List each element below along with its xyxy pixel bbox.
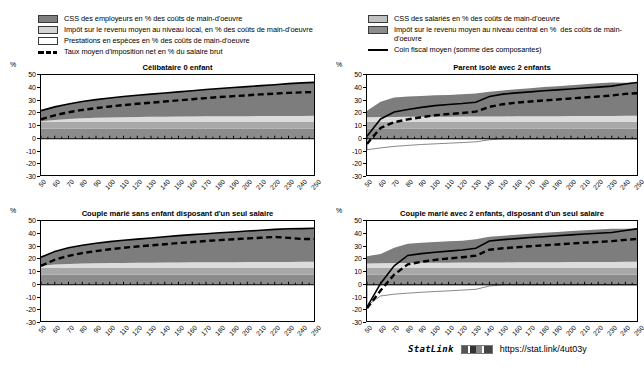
y-axis-tick-label: 30	[354, 96, 362, 103]
x-axis-tick-label: 50	[37, 324, 47, 334]
legend-label-local-income-tax: Impôt sur le revenu moyen au niveau loca…	[64, 25, 313, 34]
x-axis-tick-label: 80	[78, 324, 88, 334]
x-axis-tick-label: 70	[390, 324, 400, 334]
area-series	[367, 268, 638, 275]
y-axis-tick-label: -30	[26, 319, 36, 326]
x-axis-tick-label: 200	[565, 324, 578, 337]
x-axis-tick-label: 70	[390, 178, 400, 188]
y-axis-unit-label: %	[336, 207, 342, 214]
y-axis-tick-label: -30	[26, 173, 36, 180]
y-axis-tick-label: 0	[32, 134, 36, 141]
y-axis-tick-label: 40	[28, 229, 36, 236]
x-axis-tick-label: 240	[619, 324, 632, 337]
y-axis-tick	[37, 112, 40, 113]
x-axis-tick-label: 240	[296, 178, 309, 191]
y-axis-tick-label: 20	[354, 255, 362, 262]
y-axis-tick	[363, 220, 366, 221]
chart-panel-celibataire-0-enfant: %Célibataire 0 enfant50403020100-10-20-3…	[0, 62, 322, 200]
y-axis-tick	[37, 297, 40, 298]
x-axis-tick-label: 170	[200, 324, 213, 337]
x-axis-tick-label: 190	[227, 178, 240, 191]
y-axis-tick	[37, 271, 40, 272]
y-axis-tick	[37, 87, 40, 88]
y-axis-tick	[363, 297, 366, 298]
x-axis-tick-label: 180	[537, 324, 550, 337]
area-series	[41, 122, 315, 129]
x-axis-tick-label: 220	[268, 324, 281, 337]
x-axis-tick-label: 160	[186, 324, 199, 337]
x-axis-tick-label: 150	[497, 178, 510, 191]
y-axis-unit-label: %	[10, 207, 16, 214]
legend-swatch-central-income-tax	[368, 26, 388, 34]
legend-item-employer-ssc: CSS des employeurs en % des coûts de mai…	[38, 14, 338, 24]
x-axis-tick-label: 50	[363, 324, 373, 334]
x-axis-tick-label: 110	[443, 178, 455, 190]
x-axis-tick-label: 240	[296, 324, 309, 337]
y-axis-tick	[363, 138, 366, 139]
panel-title: Couple marié avec 2 enfants, disposant d…	[366, 209, 638, 218]
x-axis-tick-label: 60	[377, 324, 387, 334]
chart-panel-couple-marie-2-enfants: %Couple marié avec 2 enfants, disposant …	[322, 208, 644, 348]
x-axis-tick-label: 120	[131, 178, 144, 191]
x-axis-tick-label: 220	[592, 324, 605, 337]
y-axis-tick	[37, 100, 40, 101]
x-axis-tick-label: 80	[404, 324, 414, 334]
x-axis-tick-label: 170	[200, 178, 213, 191]
series-canvas	[41, 221, 315, 322]
statlink[interactable]: StatLink https://stat.link/4ut03y	[408, 344, 587, 354]
y-axis-tick-label: -10	[26, 147, 36, 154]
area-series-negative	[367, 285, 638, 306]
plot-area	[366, 74, 638, 176]
series-canvas	[367, 221, 638, 322]
y-axis-tick-label: 30	[28, 242, 36, 249]
y-axis-tick	[363, 233, 366, 234]
y-axis-tick	[363, 74, 366, 75]
x-axis-tick-label: 120	[456, 324, 469, 337]
y-axis-tick-label: 30	[354, 242, 362, 249]
y-axis-tick	[363, 309, 366, 310]
y-axis-tick	[37, 151, 40, 152]
y-axis-tick	[37, 284, 40, 285]
x-axis-tick-label: 160	[186, 178, 199, 191]
x-axis-tick-label: 250	[633, 324, 644, 337]
x-axis-tick-label: 220	[592, 178, 605, 191]
legend-label-net-average-tax-rate: Taux moyen d'imposition net en % du sala…	[64, 47, 222, 56]
statlink-url[interactable]: https://stat.link/4ut03y	[500, 344, 587, 354]
chart-panel-parent-isole-2-enfants: %Parent isolé avec 2 enfants50403020100-…	[322, 62, 644, 200]
y-axis-tick-label: 10	[28, 268, 36, 275]
y-axis-tick	[37, 163, 40, 164]
y-axis-tick-label: 0	[32, 280, 36, 287]
x-axis-tick-label: 190	[227, 324, 240, 337]
x-axis-tick-label: 140	[483, 178, 496, 191]
x-axis-tick-label: 230	[282, 324, 295, 337]
x-axis-tick-label: 200	[565, 178, 578, 191]
x-axis-tick-label: 210	[255, 178, 268, 191]
x-axis-tick-label: 170	[524, 178, 537, 191]
x-axis-tick-label: 250	[633, 178, 644, 191]
x-axis-tick-label: 70	[65, 324, 75, 334]
y-axis-tick-label: -10	[352, 293, 362, 300]
x-axis-tick-label: 100	[429, 324, 442, 337]
x-axis-tick-label: 90	[417, 178, 427, 188]
y-axis-tick	[37, 220, 40, 221]
x-axis-tick-label: 60	[377, 178, 387, 188]
y-axis-tick-label: 50	[354, 217, 362, 224]
x-axis-tick-label: 130	[469, 324, 482, 337]
x-axis-tick-label: 90	[92, 178, 102, 188]
chart-panel-couple-marie-sans-enfant: %Couple marié sans enfant disposant d'un…	[0, 208, 322, 348]
x-axis-tick-label: 100	[429, 178, 442, 191]
legend-label-central-income-tax: Impôt sur le revenu moyen au niveau cent…	[394, 25, 640, 44]
x-axis-tick-label: 250	[310, 178, 323, 191]
legend-item-central-income-tax: Impôt sur le revenu moyen au niveau cent…	[368, 25, 640, 44]
y-axis-tick-label: 40	[354, 229, 362, 236]
chart-legend: CSS des employeurs en % des coûts de mai…	[0, 0, 644, 60]
x-axis-tick-label: 200	[241, 324, 254, 337]
y-axis-tick	[363, 271, 366, 272]
y-axis-tick	[363, 163, 366, 164]
series-canvas	[41, 75, 315, 176]
y-axis-tick	[363, 284, 366, 285]
x-axis-tick-label: 140	[158, 178, 171, 191]
area-series	[41, 228, 315, 265]
y-axis-tick	[37, 233, 40, 234]
x-axis-tick-label: 90	[417, 324, 427, 334]
